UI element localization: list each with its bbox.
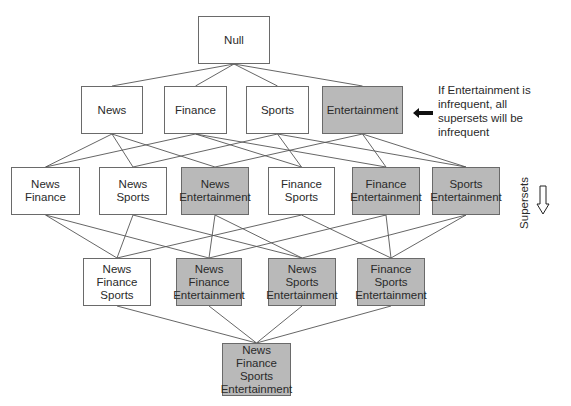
itemset-node-nf: NewsFinance bbox=[11, 167, 80, 215]
itemset-node-null: Null bbox=[198, 16, 270, 64]
annotation-line: infrequent bbox=[438, 125, 531, 139]
annotation-line: supersets will be bbox=[438, 111, 531, 125]
edge-f-nf bbox=[46, 134, 196, 167]
itemset-label: Sports bbox=[355, 276, 427, 289]
itemset-label: Entertainment bbox=[173, 289, 245, 302]
supersets-text: Supersets bbox=[518, 177, 530, 229]
itemset-label: Entertainment bbox=[350, 191, 422, 204]
itemset-label: News bbox=[221, 344, 293, 357]
edge-null-n bbox=[112, 64, 234, 86]
supersets-label: Supersets bbox=[517, 175, 531, 231]
edge-fe-nfe bbox=[209, 215, 386, 258]
itemset-node-nfs: NewsFinanceSports bbox=[83, 258, 151, 306]
itemset-node-fs: FinanceSports bbox=[268, 167, 335, 215]
itemset-label: Entertainment bbox=[327, 104, 399, 117]
itemset-label: News bbox=[179, 178, 251, 191]
itemset-node-se: SportsEntertainment bbox=[432, 167, 500, 215]
itemset-node-fe: FinanceEntertainment bbox=[352, 167, 420, 215]
edge-n-nf bbox=[46, 134, 113, 167]
itemset-label: Sports bbox=[430, 178, 502, 191]
itemset-label: News bbox=[173, 263, 245, 276]
itemset-label: Sports bbox=[97, 289, 138, 302]
itemset-node-f: Finance bbox=[164, 86, 227, 134]
itemset-label: Finance bbox=[25, 191, 66, 204]
itemset-label: Finance bbox=[221, 357, 293, 370]
edge-nfe-nfse bbox=[209, 306, 257, 343]
itemset-node-s: Sports bbox=[246, 86, 309, 134]
itemset-node-nfe: NewsFinanceEntertainment bbox=[176, 258, 242, 306]
infrequent-annotation: If Entertainment is infrequent, all supe… bbox=[438, 83, 531, 139]
itemset-label: News bbox=[98, 104, 127, 117]
edge-null-e bbox=[234, 64, 363, 86]
itemset-node-fse: FinanceSportsEntertainment bbox=[357, 258, 425, 306]
itemset-label: Finance bbox=[97, 276, 138, 289]
edge-fe-fse bbox=[386, 215, 391, 258]
edge-f-fs bbox=[196, 134, 302, 167]
itemset-label: Finance bbox=[355, 263, 427, 276]
edge-s-ns bbox=[133, 134, 278, 167]
left-arrow-icon bbox=[413, 104, 433, 122]
itemset-label: Entertainment bbox=[430, 191, 502, 204]
itemset-label: Finance bbox=[175, 104, 216, 117]
annotation-line: If Entertainment is bbox=[438, 83, 531, 97]
edge-ns-nse bbox=[133, 215, 302, 258]
edge-nfs-nfse bbox=[117, 306, 257, 343]
annotation-line: infrequent, all bbox=[438, 97, 531, 111]
edge-fs-nfs bbox=[117, 215, 302, 258]
itemset-label: News bbox=[116, 178, 149, 191]
edge-e-fe bbox=[363, 134, 387, 167]
edge-fse-nfse bbox=[257, 306, 392, 343]
down-arrow-icon bbox=[536, 185, 550, 219]
edge-nf-nfs bbox=[46, 215, 118, 258]
itemset-label: Finance bbox=[350, 178, 422, 191]
itemset-label: Sports bbox=[221, 370, 293, 383]
itemset-label: Sports bbox=[261, 104, 294, 117]
itemset-node-ne: NewsEntertainment bbox=[181, 167, 249, 215]
edge-nf-nfe bbox=[46, 215, 210, 258]
edge-fs-fse bbox=[302, 215, 392, 258]
itemset-node-nse: NewsSportsEntertainment bbox=[268, 258, 336, 306]
itemset-label: Sports bbox=[281, 191, 322, 204]
itemset-label: Sports bbox=[266, 276, 338, 289]
edge-nse-nfse bbox=[257, 306, 303, 343]
edge-ns-nfs bbox=[117, 215, 133, 258]
edge-e-ne bbox=[215, 134, 363, 167]
itemset-label: Finance bbox=[173, 276, 245, 289]
itemset-node-n: News bbox=[81, 86, 143, 134]
edge-ne-nse bbox=[215, 215, 302, 258]
itemset-label: News bbox=[25, 178, 66, 191]
itemset-node-ns: NewsSports bbox=[99, 167, 167, 215]
itemset-label: Finance bbox=[281, 178, 322, 191]
itemset-label: Entertainment bbox=[221, 383, 293, 396]
itemset-label: News bbox=[266, 263, 338, 276]
itemset-node-e: Entertainment bbox=[322, 86, 403, 134]
itemset-label: Entertainment bbox=[179, 191, 251, 204]
edge-se-fse bbox=[391, 215, 466, 258]
itemset-node-nfse: NewsFinanceSportsEntertainment bbox=[222, 343, 291, 396]
itemset-label: Entertainment bbox=[266, 289, 338, 302]
edge-n-ne bbox=[112, 134, 215, 167]
edge-se-nse bbox=[302, 215, 466, 258]
itemset-label: Null bbox=[224, 34, 244, 47]
itemset-label: News bbox=[97, 263, 138, 276]
itemset-label: Entertainment bbox=[355, 289, 427, 302]
itemset-label: Sports bbox=[116, 191, 149, 204]
